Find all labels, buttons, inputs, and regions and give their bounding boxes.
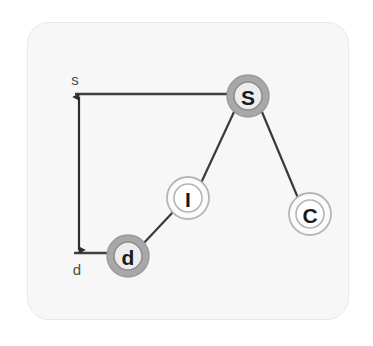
- node-d[interactable]: d: [107, 235, 149, 277]
- depth-measure-group: s d: [71, 71, 234, 278]
- node-c-label: C: [302, 204, 317, 227]
- edge-s-i: [201, 112, 234, 183]
- node-c[interactable]: C: [289, 193, 331, 235]
- edge-group: [142, 112, 298, 245]
- node-i[interactable]: I: [167, 177, 209, 219]
- node-i-label: I: [185, 188, 191, 211]
- node-d-label: d: [122, 246, 135, 269]
- edge-i-d: [142, 211, 174, 245]
- figure-root: s d S I C: [0, 0, 373, 346]
- node-s-label: S: [241, 86, 255, 109]
- measure-label-d: d: [73, 261, 81, 278]
- node-s[interactable]: S: [227, 75, 269, 117]
- diagram-canvas: s d S I C: [0, 0, 373, 346]
- measure-label-s: s: [71, 71, 79, 88]
- edge-s-c: [262, 112, 298, 198]
- node-group: S I C d: [107, 75, 331, 277]
